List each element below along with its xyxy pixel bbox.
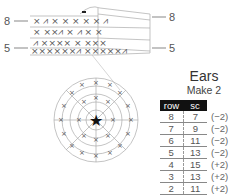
- svg-text:× ××⩘ × ⩘ × ×: × ××⩘ × ⩘ × ×: [33, 27, 103, 37]
- table-row: 611(−2): [160, 135, 239, 147]
- row-label-left-5: 5: [4, 42, 10, 54]
- stitch-count-table: row sc 87(−2) 79(−2) 611(−2) 513(−2) 415…: [160, 100, 239, 195]
- svg-text:×: ×: [69, 142, 75, 150]
- svg-text:×: ×: [79, 81, 85, 89]
- svg-text:×: ×: [117, 89, 123, 97]
- table-row: 415(+2): [160, 159, 239, 171]
- svg-text:× ⩘ × × × × × ⩘: × ⩘ × × × × × ⩘: [33, 16, 108, 26]
- svg-text:×: ×: [81, 98, 87, 106]
- table-row: 19skr: [160, 195, 239, 196]
- stitch-symbols: × ⩘ × × × × × ⩘ × ××⩘ × ⩘ × × ⩘ ×××× × ×…: [31, 16, 127, 56]
- start-marker: [82, 11, 86, 13]
- svg-text:×: ×: [58, 116, 64, 124]
- svg-text:×: ×: [69, 89, 75, 97]
- pattern-title: Ears: [170, 68, 238, 84]
- svg-text:×: ×: [76, 116, 82, 124]
- svg-text:×: ×: [93, 152, 99, 160]
- svg-text:×: ×: [117, 142, 123, 150]
- header-row: row: [160, 100, 183, 111]
- svg-text:××××××⩘ ×××××⩘: ××××××⩘ ×××××⩘: [31, 46, 127, 56]
- svg-text:×: ×: [81, 132, 87, 140]
- svg-text:×: ×: [107, 149, 113, 157]
- magic-ring-star-icon: ★: [89, 112, 103, 129]
- svg-text:×: ×: [125, 130, 131, 138]
- table-row: 211(+2): [160, 183, 239, 195]
- row-label-left-8: 8: [4, 15, 10, 27]
- svg-text:×: ×: [93, 136, 99, 144]
- row-label-right-5: 5: [169, 42, 175, 54]
- svg-text:×: ×: [105, 98, 111, 106]
- table-row: 87(−2): [160, 111, 239, 123]
- svg-text:×: ×: [93, 79, 99, 87]
- header-sc: sc: [183, 100, 207, 111]
- svg-text:×: ×: [110, 116, 116, 124]
- table-row: 313(+2): [160, 171, 239, 183]
- svg-text:×: ×: [128, 116, 134, 124]
- svg-text:×: ×: [61, 130, 67, 138]
- svg-text:×: ×: [61, 102, 67, 110]
- svg-text:×: ×: [107, 81, 113, 89]
- pattern-subtitle: Make 2: [170, 84, 238, 96]
- table-row: 513(−2): [160, 147, 239, 159]
- svg-text:×: ×: [79, 149, 85, 157]
- svg-text:×: ×: [93, 94, 99, 102]
- svg-text:×: ×: [125, 102, 131, 110]
- svg-text:×: ×: [105, 132, 111, 140]
- row-label-right-8: 8: [169, 11, 175, 23]
- table-row: 79(−2): [160, 123, 239, 135]
